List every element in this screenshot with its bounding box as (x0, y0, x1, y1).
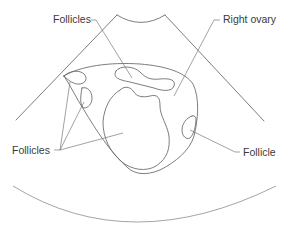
central-follicle (103, 87, 169, 169)
top-follicle (115, 67, 174, 90)
ovary-outline (64, 64, 198, 174)
diagram-graphics (0, 0, 292, 240)
sector-right-edge (165, 15, 264, 121)
sector-bottom-arc (13, 186, 276, 222)
sector-top-curve (117, 15, 165, 23)
ultrasound-diagram: Follicles Right ovary Follicles Follicle (0, 0, 292, 240)
left-upper-follicle (64, 71, 86, 84)
sector-outline (13, 15, 276, 222)
leader-follicles-left-1 (54, 82, 70, 150)
label-follicles-top: Follicles (53, 14, 91, 25)
leader-follicles-top (91, 20, 132, 78)
label-follicle-right: Follicle (243, 147, 276, 158)
label-right-ovary: Right ovary (223, 14, 276, 25)
leader-follicle-right (190, 130, 240, 152)
leader-follicles-left-3 (60, 133, 123, 150)
label-follicles-left: Follicles (12, 145, 50, 156)
